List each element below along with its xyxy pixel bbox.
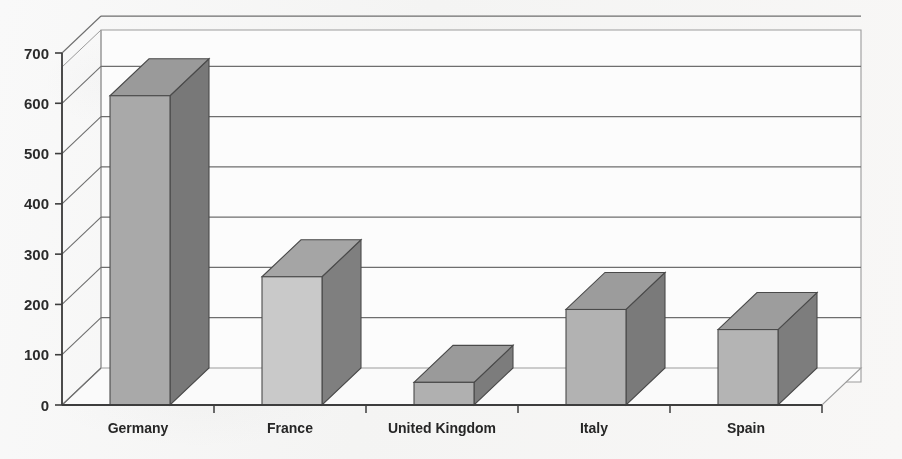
y-axis-tick-label: 100 (24, 346, 49, 363)
x-axis-category-label: Germany (108, 420, 169, 436)
gridline-depth-connector (62, 318, 101, 355)
bar-side-face (170, 59, 209, 405)
y-axis-tick-label: 600 (24, 95, 49, 112)
bar-front-face (566, 309, 626, 405)
gridline-depth-connector (62, 267, 101, 304)
y-axis-tick-label: 400 (24, 195, 49, 212)
bar-france[interactable] (262, 240, 361, 405)
x-axis-category-label: United Kingdom (388, 420, 496, 436)
gridline-depth-connector (62, 167, 101, 204)
bar-chart-3d: 0100200300400500600700GermanyFranceUnite… (0, 0, 902, 459)
bar-front-face (414, 382, 474, 405)
y-axis-tick-label: 300 (24, 246, 49, 263)
bar-germany[interactable] (110, 59, 209, 405)
y-axis-tick-label: 200 (24, 296, 49, 313)
x-axis-category-label: Spain (727, 420, 765, 436)
bar-front-face (110, 96, 170, 405)
y-axis-tick-label: 0 (41, 397, 49, 414)
y-axis-tick-label: 700 (24, 45, 49, 62)
chart-page: 0100200300400500600700GermanyFranceUnite… (0, 0, 902, 459)
y-axis-tick-label: 500 (24, 145, 49, 162)
gridline-depth-connector (62, 117, 101, 154)
bar-front-face (718, 330, 778, 405)
gridline-depth-connector (62, 16, 101, 53)
gridline-depth-connector (62, 217, 101, 254)
bar-front-face (262, 277, 322, 405)
x-axis-category-label: Italy (580, 420, 608, 436)
x-axis-category-label: France (267, 420, 313, 436)
gridline-depth-connector (62, 66, 101, 103)
